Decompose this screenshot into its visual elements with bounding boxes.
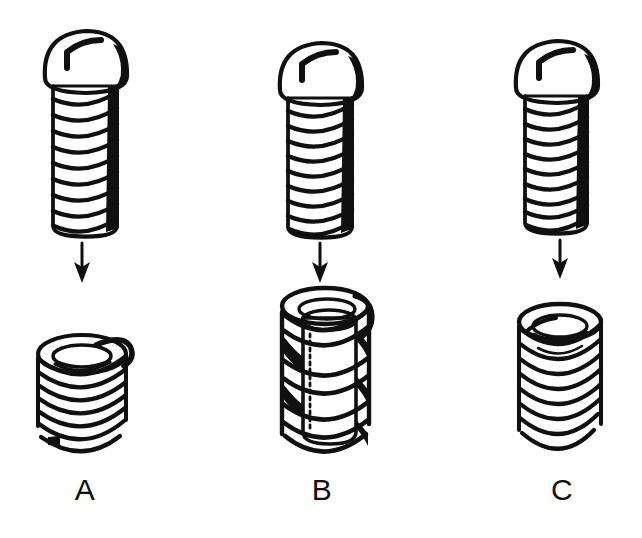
- option-label-c: C: [551, 473, 573, 506]
- diagram-illustration: A: [0, 0, 642, 538]
- insert-b: [280, 288, 372, 452]
- option-label-b: B: [312, 473, 333, 506]
- option-label-a: A: [75, 473, 96, 506]
- insert-a-bottom-notch: [48, 436, 60, 445]
- insert-c: [519, 304, 601, 450]
- figure-canvas: A: [0, 0, 642, 538]
